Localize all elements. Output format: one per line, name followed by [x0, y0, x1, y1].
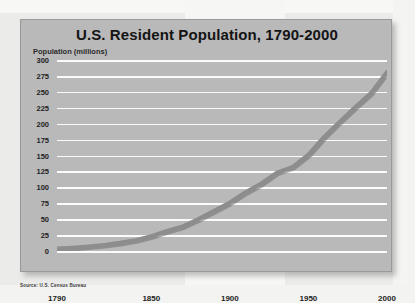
y-axis-tick-label: 25	[15, 231, 49, 240]
x-axis-tick-label: 2000	[378, 294, 396, 303]
page-background-band-right	[393, 0, 415, 303]
x-axis-tick-label: 1950	[300, 294, 318, 303]
y-axis-tick-label: 100	[15, 183, 49, 192]
x-axis-tick-label: 1790	[48, 294, 66, 303]
y-axis-label: Population (millions)	[33, 47, 107, 56]
chart-card: U.S. Resident Population, 1790-2000 Popu…	[20, 19, 392, 272]
y-axis-tick-label: 75	[15, 199, 49, 208]
y-axis-tick-label: 125	[15, 167, 49, 176]
population-line-series	[57, 60, 387, 251]
y-axis-tick-label: 225	[15, 104, 49, 113]
chart-title: U.S. Resident Population, 1790-2000	[21, 26, 393, 43]
y-axis-tick-label: 250	[15, 88, 49, 97]
y-axis-tick-label: 175	[15, 136, 49, 145]
y-axis-tick-label: 275	[15, 72, 49, 81]
y-axis-tick-label: 0	[15, 247, 49, 256]
population-line-path	[57, 72, 387, 249]
x-axis-tick-label: 1850	[142, 294, 160, 303]
gridline	[57, 251, 387, 253]
y-axis-tick-label: 300	[15, 56, 49, 65]
population-line-shadow	[58, 73, 387, 250]
x-axis-tick-label: 1900	[221, 294, 239, 303]
y-axis-tick-label: 200	[15, 120, 49, 129]
source-note: Source: U.S. Census Bureau	[20, 283, 86, 288]
page-root: U.S. Resident Population, 1790-2000 Popu…	[0, 0, 415, 303]
y-axis-tick-label: 150	[15, 152, 49, 161]
y-axis-tick-label: 50	[15, 215, 49, 224]
